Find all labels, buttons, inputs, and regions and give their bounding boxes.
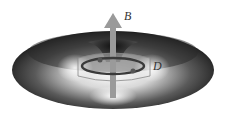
arrow-b-shaft xyxy=(110,26,116,98)
label-b: B xyxy=(124,9,131,24)
arrow-b-head xyxy=(104,13,122,28)
label-d: D xyxy=(153,59,162,74)
torus-diagram: B D xyxy=(0,0,228,121)
torus-illustration xyxy=(0,0,228,121)
